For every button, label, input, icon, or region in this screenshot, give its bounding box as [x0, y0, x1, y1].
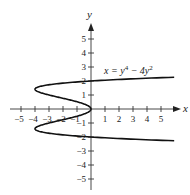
x-axis-label: x [182, 102, 188, 114]
svg-text:3: 3 [131, 114, 136, 124]
y-axis-arrow-icon [88, 23, 94, 31]
svg-text:5: 5 [82, 34, 87, 44]
svg-text:−1: −1 [76, 118, 86, 128]
svg-text:3: 3 [82, 62, 87, 72]
svg-text:4: 4 [145, 114, 150, 124]
graph: −5 −4 −3 −2 −1 1 2 3 4 5 5 4 3 2 1 −1 −2… [0, 0, 190, 195]
svg-text:−5: −5 [14, 114, 24, 124]
svg-text:−4: −4 [28, 114, 38, 124]
svg-text:5: 5 [159, 114, 164, 124]
svg-text:−5: −5 [76, 174, 86, 184]
svg-text:−4: −4 [76, 160, 86, 170]
svg-text:1: 1 [82, 90, 87, 100]
equation-label: x = y4 − 4y2 [103, 64, 153, 76]
svg-text:2: 2 [117, 114, 122, 124]
x-tick-labels: −5 −4 −3 −2 −1 1 2 3 4 5 [14, 114, 164, 124]
svg-text:−3: −3 [76, 146, 86, 156]
svg-text:1: 1 [103, 114, 108, 124]
y-axis-label: y [86, 8, 92, 20]
x-axis-arrow-icon [173, 106, 181, 112]
svg-text:4: 4 [82, 48, 87, 58]
